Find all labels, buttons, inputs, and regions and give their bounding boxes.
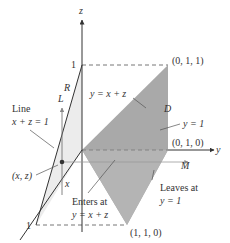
vertex-010-label: (0, 1, 0) [172,137,204,149]
y-eq-1-label: y = 1 [182,118,204,129]
line-title: Line [12,103,31,114]
label-x: x [64,178,70,189]
z-axis-label: z [78,5,83,16]
point-xz-label: (x, z) [12,170,33,182]
point-xz [60,160,65,165]
y-axis-label: y [215,144,221,155]
x-tick-1: 1 [26,220,31,231]
label-d: D [163,103,172,114]
leader-line-eq [30,130,54,148]
plane-equation: y = x + z [89,88,126,99]
vertex-011-label: (0, 1, 1) [172,55,204,67]
z-tick-1: 1 [71,59,76,70]
enters-at-line1: Enters at [72,196,107,207]
leaves-at-line2: y = 1 [159,195,181,206]
label-l: L [57,93,64,104]
region-diagram: z y 1 1 R L D M x Line x + z = 1 y = x +… [0,0,230,243]
enters-at-line2: y = x + z [71,209,108,220]
line-equation: x + z = 1 [11,116,49,127]
label-r: R [63,82,70,93]
leaves-at-line1: Leaves at [160,182,198,193]
label-m: M [180,160,190,171]
vertex-110-label: (1, 1, 0) [130,227,162,239]
